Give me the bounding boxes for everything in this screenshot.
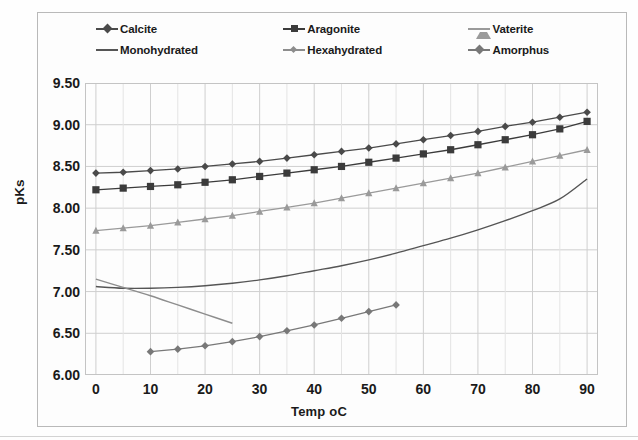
x-tick-label: 80 (513, 381, 553, 397)
x-tick-label: 60 (403, 381, 443, 397)
x-tick-label: 50 (349, 381, 389, 397)
y-tick-label: 7.50 (24, 242, 80, 258)
y-tick-label: 6.00 (24, 367, 80, 383)
legend-key-calcite (96, 23, 118, 35)
data-marker (119, 168, 127, 176)
x-axis-tick-labels: 0102030405060708090 (85, 381, 598, 401)
y-tick-label: 8.00 (24, 200, 80, 216)
legend-key-vaterite (468, 23, 490, 35)
legend-label-hexahydrated: Hexahydrated (307, 44, 382, 56)
x-tick-label: 30 (240, 381, 280, 397)
data-marker (447, 146, 454, 153)
y-tick-label: 6.50 (24, 325, 80, 341)
data-marker (310, 321, 318, 329)
series-line (150, 305, 396, 352)
data-marker (256, 173, 263, 180)
legend-label-monohydrated: Monohydrated (120, 44, 198, 56)
y-tick-label: 9.50 (24, 75, 80, 91)
legend-item-amorphus: Amorphus (426, 39, 615, 60)
x-tick-label: 10 (130, 381, 170, 397)
legend-item-aragonite: Aragonite (237, 18, 426, 39)
data-marker (583, 108, 591, 116)
plot-area (85, 83, 598, 375)
data-marker (311, 166, 318, 173)
bottom-divider (0, 436, 638, 437)
plot-svg (85, 83, 598, 375)
chart-container: Calcite Aragonite Vaterite Monohydrated (0, 0, 638, 440)
data-marker (256, 158, 264, 166)
x-tick-label: 90 (567, 381, 607, 397)
data-marker (338, 148, 346, 156)
data-marker (338, 314, 346, 322)
x-tick-label: 0 (76, 381, 116, 397)
y-tick-label: 8.50 (24, 158, 80, 174)
data-marker (338, 163, 345, 170)
data-marker (392, 301, 400, 309)
data-marker (283, 170, 290, 177)
y-axis-title: pKs (12, 179, 27, 205)
chart-legend: Calcite Aragonite Vaterite Monohydrated (48, 18, 618, 60)
legend-label-amorphus: Amorphus (492, 44, 549, 56)
data-marker (147, 348, 155, 356)
data-marker (583, 146, 590, 153)
data-marker (120, 185, 127, 192)
data-marker (147, 167, 155, 175)
legend-key-aragonite (283, 23, 305, 35)
data-marker (174, 181, 181, 188)
data-marker (365, 144, 373, 152)
data-marker (501, 123, 509, 131)
y-axis-tick-labels: 6.006.507.007.508.008.509.009.50 (18, 0, 80, 440)
legend-key-hexahydrated (283, 44, 305, 56)
x-axis-title: Temp oC (0, 404, 638, 419)
x-tick-label: 40 (294, 381, 334, 397)
data-marker (92, 186, 99, 193)
data-marker (256, 333, 264, 341)
legend-item-hexahydrated: Hexahydrated (237, 39, 426, 60)
data-marker (420, 150, 427, 157)
legend-item-vaterite: Vaterite (426, 18, 615, 39)
data-marker (310, 151, 318, 159)
data-marker (556, 125, 563, 132)
data-marker (229, 176, 236, 183)
data-marker (229, 338, 237, 346)
data-marker (174, 345, 182, 353)
data-marker (447, 132, 455, 140)
data-marker (283, 154, 291, 162)
data-marker (365, 159, 372, 166)
legend-key-monohydrated (96, 44, 118, 56)
x-tick-label: 20 (185, 381, 225, 397)
data-marker (365, 308, 373, 316)
data-marker (201, 163, 209, 171)
data-marker (420, 136, 428, 144)
legend-key-amorphus (468, 44, 490, 56)
data-marker (201, 342, 209, 350)
y-tick-label: 7.00 (24, 284, 80, 300)
legend-label-calcite: Calcite (120, 23, 157, 35)
data-marker (502, 136, 509, 143)
data-marker (474, 128, 482, 136)
data-marker (392, 154, 399, 161)
series-amorphus (147, 301, 400, 355)
data-marker (583, 118, 590, 125)
data-marker (392, 140, 400, 148)
legend-label-vaterite: Vaterite (492, 23, 533, 35)
legend-label-aragonite: Aragonite (307, 23, 360, 35)
data-marker (556, 113, 564, 121)
data-marker (201, 179, 208, 186)
y-tick-label: 9.00 (24, 117, 80, 133)
data-marker (529, 131, 536, 138)
data-marker (147, 183, 154, 190)
data-marker (92, 169, 100, 177)
x-tick-label: 70 (458, 381, 498, 397)
data-marker (474, 141, 481, 148)
